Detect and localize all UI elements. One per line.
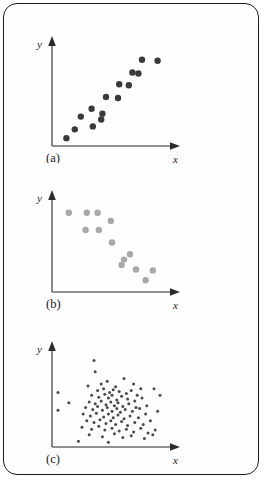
data-point (118, 430, 121, 433)
data-point (132, 430, 135, 433)
data-point (129, 414, 132, 417)
data-point (105, 422, 108, 425)
data-point (136, 394, 139, 397)
data-point (111, 410, 114, 413)
data-point (112, 388, 115, 391)
data-point (85, 419, 88, 422)
data-point (120, 420, 123, 423)
data-point (109, 419, 112, 422)
data-point (126, 424, 129, 427)
data-point (84, 210, 90, 216)
y-axis-label-b: y (36, 192, 42, 204)
figure-frame: y x (a) y x (b) (3, 3, 259, 475)
data-point (143, 437, 146, 440)
data-point (96, 405, 99, 408)
data-point (130, 389, 133, 392)
data-point (88, 400, 91, 403)
data-point (131, 410, 134, 413)
data-point (87, 384, 90, 387)
data-point (139, 427, 142, 430)
y-axis-label-c: y (36, 343, 42, 355)
data-point (96, 389, 99, 392)
data-point (77, 440, 80, 443)
data-points-a (63, 57, 161, 142)
data-point (154, 429, 157, 432)
plot-a-axes (48, 36, 180, 150)
data-point (114, 385, 117, 388)
data-point (113, 432, 116, 435)
data-point (133, 399, 136, 402)
data-point (142, 423, 145, 426)
data-point (95, 412, 98, 415)
data-point (139, 387, 142, 390)
data-point (119, 411, 122, 414)
data-point (97, 425, 100, 428)
data-point (154, 58, 160, 64)
data-point (91, 408, 94, 411)
data-point (150, 267, 156, 273)
data-point (101, 409, 104, 412)
data-point (100, 383, 103, 386)
data-point (88, 106, 94, 112)
data-point (141, 397, 144, 400)
data-point (82, 413, 85, 416)
data-point (103, 429, 106, 432)
data-point (90, 428, 93, 431)
data-point (93, 359, 96, 362)
data-point (103, 393, 106, 396)
data-point (108, 218, 114, 224)
y-axis-arrow-c (48, 341, 56, 351)
x-axis-label-a: x (172, 153, 178, 163)
data-point (145, 404, 148, 407)
data-point (63, 135, 69, 141)
data-point (94, 370, 97, 373)
data-point (135, 70, 141, 76)
data-point (94, 402, 97, 405)
data-point (137, 416, 140, 419)
data-point (133, 266, 139, 272)
data-point (127, 251, 133, 257)
scatter-plot-c: y x (c) (4, 327, 260, 467)
data-point (115, 95, 121, 101)
data-point (108, 391, 111, 394)
data-point (102, 415, 105, 418)
data-point (118, 262, 124, 268)
data-point (126, 398, 129, 401)
data-point (57, 391, 60, 394)
panel-label-c: (c) (46, 452, 60, 466)
data-point (144, 413, 147, 416)
data-point (151, 433, 154, 436)
data-point (129, 69, 135, 75)
data-point (106, 380, 109, 383)
y-axis-arrow-b (48, 190, 56, 200)
data-point (138, 407, 141, 410)
data-point (123, 417, 126, 420)
data-point (98, 116, 104, 122)
scatter-plot-c-canvas: y x (c) (4, 327, 260, 467)
data-point (115, 407, 118, 410)
panel-label-b: (b) (46, 297, 61, 311)
y-axis-label-a: y (36, 38, 42, 50)
data-point (147, 431, 150, 434)
data-point (82, 227, 88, 233)
data-point (142, 277, 148, 283)
data-point (90, 123, 96, 129)
data-point (159, 394, 162, 397)
data-point (106, 406, 109, 409)
data-point (139, 57, 145, 63)
data-point (89, 414, 92, 417)
data-point (125, 428, 128, 431)
data-point (102, 387, 105, 390)
data-point (99, 110, 105, 116)
data-point (115, 399, 118, 402)
data-point (132, 383, 135, 386)
x-axis-arrow-c (170, 443, 180, 451)
data-points-b (66, 210, 156, 284)
data-point (66, 210, 72, 216)
data-point (67, 401, 70, 404)
data-point (109, 239, 115, 245)
data-point (78, 113, 84, 119)
data-point (127, 402, 130, 405)
data-point (94, 210, 100, 216)
data-point (125, 392, 128, 395)
